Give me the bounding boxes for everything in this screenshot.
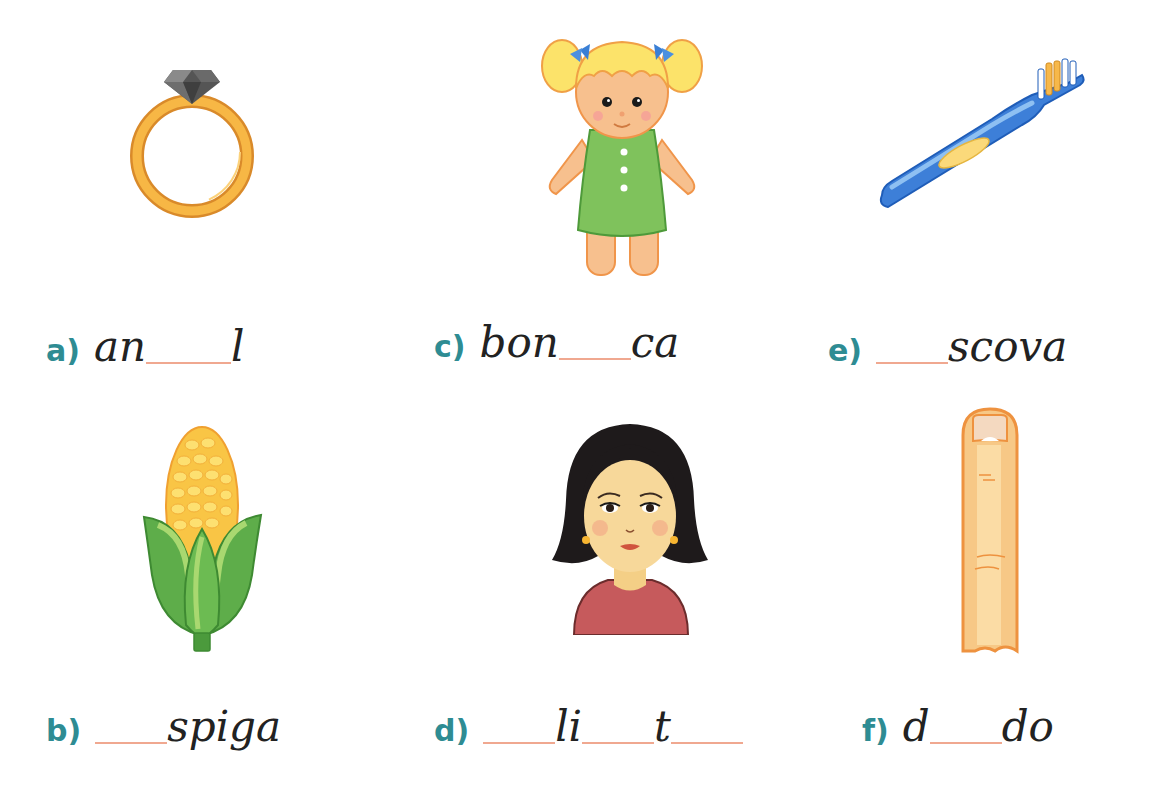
item-label: a): [46, 336, 80, 370]
item-label: e): [828, 336, 862, 370]
item-label: b): [46, 716, 81, 750]
word-template: scova: [876, 326, 1067, 370]
exercise-item-f: f) d do: [862, 690, 1054, 750]
fill-in-blank[interactable]: [930, 741, 1002, 744]
fill-in-blank[interactable]: [146, 361, 231, 364]
word-fragment: do: [1002, 706, 1054, 750]
word-fragment: li: [555, 706, 582, 750]
word-template: bon ca: [480, 322, 680, 366]
word-fragment: d: [903, 706, 930, 750]
word-fragment: spiga: [167, 706, 281, 750]
fill-in-blank[interactable]: [876, 361, 948, 364]
item-label: c): [434, 332, 466, 366]
fill-in-blank[interactable]: [95, 741, 167, 744]
toothbrush-icon: [872, 55, 1092, 215]
word-fragment: l: [231, 326, 244, 370]
exercise-item-e: e) scova: [828, 310, 1067, 370]
exercise-item-d: d) li t: [434, 690, 743, 750]
word-template: spiga: [95, 706, 281, 750]
word-fragment: an: [94, 326, 146, 370]
fill-in-blank[interactable]: [559, 357, 631, 360]
word-fragment: t: [654, 706, 671, 750]
woman-illustration: [548, 420, 713, 635]
doll-illustration: [532, 30, 712, 280]
fill-in-blank[interactable]: [671, 741, 743, 744]
finger-illustration: [955, 405, 1025, 655]
corn-icon: [140, 425, 265, 655]
ring-illustration: [128, 60, 258, 220]
word-template: d do: [903, 706, 1054, 750]
fill-in-blank[interactable]: [483, 741, 555, 744]
word-fragment: bon: [480, 322, 559, 366]
item-label: d): [434, 716, 469, 750]
doll-icon: [532, 30, 712, 280]
exercise-item-b: b) spiga: [46, 690, 281, 750]
fill-in-blank[interactable]: [582, 741, 654, 744]
word-template: an l: [94, 326, 245, 370]
corn-illustration: [140, 425, 265, 655]
finger-icon: [955, 405, 1025, 655]
toothbrush-illustration: [872, 55, 1092, 215]
item-label: f): [862, 716, 889, 750]
exercise-item-c: c) bon ca: [434, 306, 679, 366]
ring-icon: [128, 60, 258, 220]
word-template: li t: [483, 706, 743, 750]
word-fragment: scova: [948, 326, 1067, 370]
word-fragment: ca: [631, 322, 680, 366]
exercise-item-a: a) an l: [46, 310, 245, 370]
woman-face-icon: [548, 420, 713, 635]
